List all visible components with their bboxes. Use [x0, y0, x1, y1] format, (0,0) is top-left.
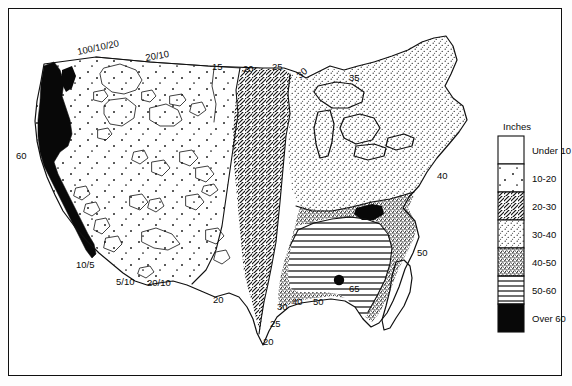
map-label-20-10-bottom: 20/10: [147, 277, 171, 288]
map-label-10-5: 10/5: [76, 259, 95, 270]
map-label-50-right: 50: [417, 247, 428, 258]
legend-swatch-10-20: [498, 164, 524, 192]
map-label-40-right: 40: [437, 170, 448, 181]
map-label-30-bottom: 30: [277, 301, 288, 312]
legend-swatch-under-10: [498, 136, 524, 164]
legend-swatch-40-50: [498, 248, 524, 276]
map-label-65: 65: [349, 283, 360, 294]
legend-label-over-60: Over 60: [532, 313, 566, 324]
legend: Inches Under 10 10-20 20-30 30-40 40-50 …: [498, 121, 571, 332]
legend-label-10-20: 10-20: [532, 173, 556, 184]
legend-swatch-20-30: [498, 192, 524, 220]
legend-swatch-50-60: [498, 276, 524, 304]
legend-title: Inches: [503, 121, 531, 132]
map-label-40-bottom: 40: [292, 296, 303, 307]
map-label-20-lower: 20: [213, 294, 224, 305]
map-label-20-10-top: 20/10: [144, 48, 169, 63]
map-label-20-bottom: 20: [263, 336, 274, 347]
legend-label-under-10: Under 10: [532, 145, 571, 156]
legend-label-50-60: 50-60: [532, 285, 556, 296]
map-label-15: 15: [212, 61, 223, 72]
precipitation-map: 100/10/20 20/10 15 20 25 30 35 60 40 50 …: [0, 0, 572, 386]
zone-10-20-west: [35, 58, 240, 282]
zone-over-60-gulf-spot: [334, 275, 344, 285]
legend-swatch-30-40: [498, 220, 524, 248]
map-label-25-bottom: 25: [270, 318, 281, 329]
map-label-5-10: 5/10: [116, 276, 135, 287]
map-label-50-bottom: 50: [313, 296, 324, 307]
legend-swatch-over-60: [498, 304, 524, 332]
figure-page: 100/10/20 20/10 15 20 25 30 35 60 40 50 …: [0, 0, 572, 386]
map-label-60-left: 60: [16, 150, 27, 161]
legend-label-40-50: 40-50: [532, 257, 556, 268]
legend-label-20-30: 20-30: [532, 201, 556, 212]
legend-label-30-40: 30-40: [532, 229, 556, 240]
map-label-25-top: 25: [272, 61, 283, 72]
map-label-35: 35: [349, 72, 360, 83]
map-label-20-top: 20: [243, 63, 254, 74]
map-label-100-10-20: 100/10/20: [76, 37, 120, 57]
